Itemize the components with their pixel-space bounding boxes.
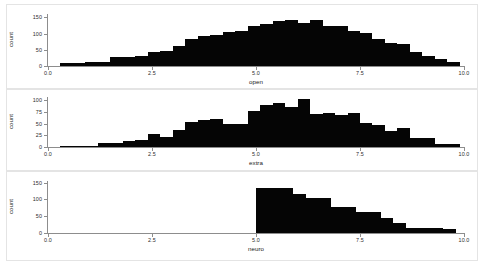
x-tick-label: 2.5	[148, 151, 156, 157]
histogram-bar	[256, 188, 268, 233]
x-tick-label: 0.0	[44, 237, 52, 243]
y-axis-title: count	[7, 20, 14, 60]
histogram-bar	[410, 138, 422, 147]
figure-container: 0501001500.02.55.07.510.0countopen025507…	[0, 0, 484, 265]
histogram-bar	[410, 52, 422, 66]
x-axis-title: open	[249, 78, 263, 85]
y-axis-title: count	[7, 102, 14, 142]
histogram-bar	[331, 207, 343, 233]
y-tick-label: 100	[14, 196, 42, 202]
y-tick-mark	[44, 124, 47, 125]
histogram-panel-extra: 02550751000.02.55.07.510.0countextra	[6, 89, 478, 171]
plot-area	[48, 97, 464, 147]
y-tick-label: 100	[14, 31, 42, 37]
histogram-bar	[260, 105, 272, 147]
y-tick-mark	[44, 233, 47, 234]
histogram-bar	[381, 218, 393, 233]
histogram-bar	[343, 207, 355, 233]
histogram-bar	[385, 43, 397, 66]
histogram-bar	[318, 198, 330, 233]
histogram-bar	[185, 122, 197, 147]
bars-group	[48, 14, 464, 66]
x-tick-label: 5.0	[252, 70, 260, 76]
y-tick-label: 100	[14, 97, 42, 103]
histogram-bar	[185, 39, 197, 66]
y-tick-mark	[44, 135, 47, 136]
y-tick-label: 0	[14, 63, 42, 69]
x-axis-title: extra	[249, 159, 263, 166]
histogram-bar	[223, 32, 235, 66]
y-axis-line	[47, 14, 48, 67]
histogram-bar	[335, 26, 347, 66]
histogram-bar	[323, 113, 335, 147]
x-tick-label: 10.0	[459, 70, 470, 76]
y-tick-label: 50	[14, 213, 42, 219]
x-tick-label: 7.5	[356, 151, 364, 157]
histogram-bar	[285, 20, 297, 66]
histogram-bar	[348, 31, 360, 66]
histogram-bar	[198, 120, 210, 147]
histogram-bar	[273, 21, 285, 67]
histogram-bar	[235, 124, 247, 147]
x-tick-label: 5.0	[252, 237, 260, 243]
histogram-bar	[422, 138, 434, 147]
y-tick-mark	[44, 17, 47, 18]
histogram-bar	[223, 124, 235, 147]
histogram-bar	[281, 188, 293, 233]
y-tick-mark	[44, 50, 47, 51]
histogram-bar	[210, 119, 222, 148]
histogram-bar	[422, 56, 434, 66]
x-tick-label: 10.0	[459, 151, 470, 157]
histogram-bar	[323, 26, 335, 66]
histogram-bar	[397, 44, 409, 66]
histogram-bar	[393, 223, 405, 233]
histogram-bar	[248, 26, 260, 66]
histogram-bar	[285, 107, 297, 147]
histogram-bar	[397, 128, 409, 147]
y-tick-label: 0	[14, 230, 42, 236]
histogram-bar	[360, 123, 372, 147]
histogram-bar	[160, 51, 172, 66]
x-tick-label: 0.0	[44, 151, 52, 157]
histogram-bar	[298, 99, 310, 147]
y-tick-mark	[44, 183, 47, 184]
histogram-bar	[356, 212, 368, 233]
histogram-bar	[298, 23, 310, 66]
histogram-bar	[148, 134, 160, 147]
histogram-bar	[235, 31, 247, 66]
y-tick-mark	[44, 199, 47, 200]
histogram-bar	[372, 125, 384, 147]
histogram-bar	[135, 140, 147, 147]
plot-area	[48, 14, 464, 66]
y-tick-label: 75	[14, 109, 42, 115]
histogram-bar	[293, 194, 305, 233]
plot-area	[48, 181, 464, 233]
histogram-bar	[198, 36, 210, 66]
y-tick-label: 50	[14, 121, 42, 127]
y-tick-label: 25	[14, 132, 42, 138]
histogram-bar	[123, 57, 135, 66]
histogram-bar	[135, 56, 147, 66]
x-axis-title: neuro	[248, 245, 264, 252]
histogram-bar	[385, 131, 397, 147]
histogram-bar	[372, 39, 384, 66]
y-tick-mark	[44, 216, 47, 217]
x-tick-label: 7.5	[356, 70, 364, 76]
histogram-bar	[368, 212, 380, 233]
histogram-bar	[160, 137, 172, 147]
histogram-bar	[273, 103, 285, 147]
x-tick-label: 2.5	[148, 70, 156, 76]
y-tick-label: 150	[14, 14, 42, 20]
histogram-bar	[110, 57, 122, 66]
histogram-panel-neuro: 0501001500.02.55.07.510.0countneuro	[6, 171, 478, 261]
histogram-bar	[348, 113, 360, 147]
histogram-bar	[335, 115, 347, 147]
y-tick-label: 50	[14, 47, 42, 53]
x-tick-label: 10.0	[459, 237, 470, 243]
x-tick-label: 7.5	[356, 237, 364, 243]
histogram-bar	[435, 59, 447, 66]
y-tick-mark	[44, 66, 47, 67]
y-axis-line	[47, 181, 48, 234]
histogram-bar	[310, 20, 322, 66]
y-tick-mark	[44, 112, 47, 113]
